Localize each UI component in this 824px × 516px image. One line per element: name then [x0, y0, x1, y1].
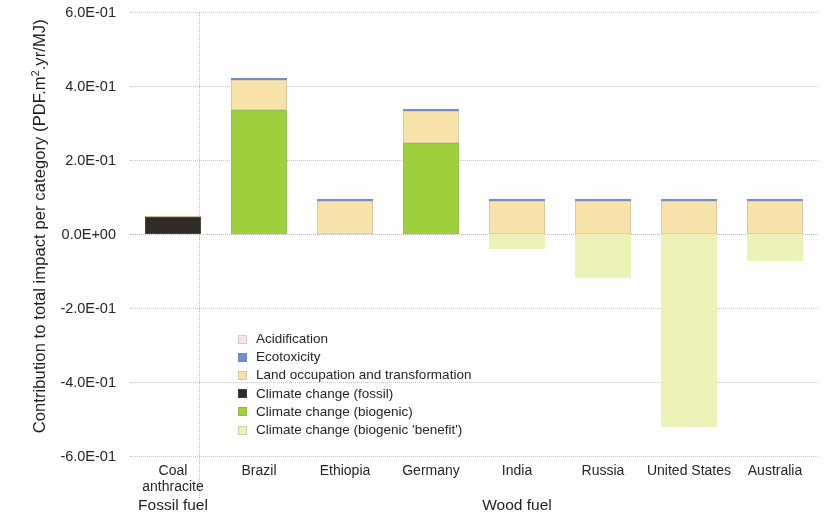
x-axis-tick-label-line: Russia [560, 462, 646, 478]
y-axis-tick-label: 0.0E+00 [0, 226, 116, 242]
x-axis-tick-label: India [474, 462, 560, 478]
bar-segment [489, 201, 545, 234]
y-axis-tick-label: 2.0E-01 [0, 152, 116, 168]
bar-segment [403, 111, 459, 143]
x-axis-tick-label: Australia [732, 462, 818, 478]
x-axis-group-label: Fossil fuel [53, 496, 293, 514]
bar-segment [231, 80, 287, 110]
legend-label: Land occupation and transformation [256, 366, 471, 384]
y-axis-tick-label: -4.0E-01 [0, 374, 116, 390]
bar-segment [231, 110, 287, 234]
x-axis-tick-label: Ethiopia [302, 462, 388, 478]
legend-label: Ecotoxicity [256, 348, 321, 366]
bar-segment [403, 143, 459, 234]
legend-swatch-icon [238, 426, 247, 435]
x-axis-tick-label-line: United States [646, 462, 732, 478]
legend-swatch-icon [238, 407, 247, 416]
bar-segment-negative [575, 234, 631, 278]
x-axis-tick-label-line: Ethiopia [302, 462, 388, 478]
bar-segment [747, 199, 803, 200]
bar-segment-negative [747, 234, 803, 261]
x-axis-tick-label-line: Australia [732, 462, 818, 478]
bar-segment [661, 199, 717, 200]
x-axis-tick-label-line: Brazil [216, 462, 302, 478]
bar-united-states[interactable] [661, 12, 717, 456]
y-axis-tick-label: -6.0E-01 [0, 448, 116, 464]
gridline [130, 456, 818, 457]
bar-segment [145, 217, 201, 234]
x-axis-group-label: Wood fuel [397, 496, 637, 514]
x-axis-labels: CoalanthraciteBrazilEthiopiaGermanyIndia… [130, 462, 818, 498]
y-axis-tick-label: 6.0E-01 [0, 4, 116, 20]
legend-item[interactable]: Climate change (biogenic) [238, 403, 471, 421]
legend-item[interactable]: Acidification [238, 330, 471, 348]
legend-label: Climate change (biogenic) [256, 403, 413, 421]
x-axis-tick-label: Coalanthracite [130, 462, 216, 494]
legend-item[interactable]: Land occupation and transformation [238, 366, 471, 384]
legend-label: Acidification [256, 330, 328, 348]
legend-swatch-icon [238, 335, 247, 344]
x-axis-tick-label-line: Germany [388, 462, 474, 478]
bar-australia[interactable] [747, 12, 803, 456]
legend-swatch-icon [238, 353, 247, 362]
legend-item[interactable]: Climate change (biogenic 'benefit') [238, 421, 471, 439]
bar-india[interactable] [489, 12, 545, 456]
y-axis-ticks: 6.0E-014.0E-012.0E-010.0E+00-2.0E-01-4.0… [0, 12, 124, 456]
bar-segment [575, 199, 631, 200]
x-axis-tick-label: United States [646, 462, 732, 478]
legend-label: Climate change (fossil) [256, 385, 393, 403]
bar-segment-negative [661, 234, 717, 427]
bar-segment [145, 216, 201, 217]
x-axis-tick-label: Brazil [216, 462, 302, 478]
bar-segment [403, 109, 459, 111]
bar-segment-negative [489, 234, 545, 249]
legend-item[interactable]: Ecotoxicity [238, 348, 471, 366]
bar-segment [317, 199, 373, 200]
y-axis-tick-label: 4.0E-01 [0, 78, 116, 94]
bar-segment [489, 199, 545, 200]
chart-container: Contribution to total impact per categor… [0, 0, 824, 516]
legend-swatch-icon [238, 389, 247, 398]
x-axis-group-labels: Fossil fuelWood fuel [0, 496, 824, 516]
plot-area [130, 12, 818, 456]
x-axis-tick-label-line: Coal [130, 462, 216, 478]
legend-swatch-icon [238, 371, 247, 380]
bar-segment [575, 201, 631, 234]
bar-coal-anthracite[interactable] [145, 12, 201, 456]
legend-item[interactable]: Climate change (fossil) [238, 385, 471, 403]
x-axis-tick-label-line: anthracite [130, 478, 216, 494]
bar-segment [317, 201, 373, 234]
bar-russia[interactable] [575, 12, 631, 456]
chart-legend: AcidificationEcotoxicityLand occupation … [238, 330, 471, 439]
bar-segment [661, 201, 717, 234]
bar-segment [231, 78, 287, 80]
y-axis-tick-label: -2.0E-01 [0, 300, 116, 316]
x-axis-tick-label: Germany [388, 462, 474, 478]
x-axis-tick-label-line: India [474, 462, 560, 478]
legend-label: Climate change (biogenic 'benefit') [256, 421, 462, 439]
bar-segment [747, 201, 803, 234]
x-axis-tick-label: Russia [560, 462, 646, 478]
